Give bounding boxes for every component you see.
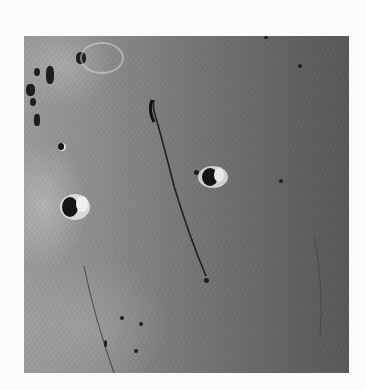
rille-line — [24, 36, 349, 373]
lunar-surface-photo — [24, 36, 349, 373]
